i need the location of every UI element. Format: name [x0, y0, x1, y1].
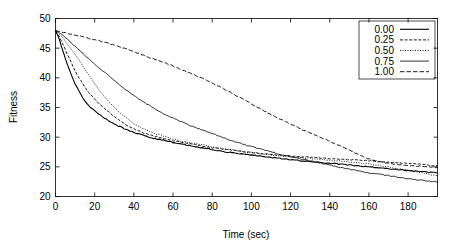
x-tick-label: 20 — [89, 201, 101, 212]
y-tick-label: 30 — [39, 132, 51, 143]
y-tick-label: 35 — [39, 102, 51, 113]
x-tick-label: 120 — [282, 201, 299, 212]
fitness-vs-time-chart: 20253035404550 020406080100120140160180 … — [0, 0, 455, 247]
x-tick-label: 0 — [53, 201, 59, 212]
x-tick-label: 100 — [243, 201, 260, 212]
y-tick-label: 50 — [39, 13, 51, 24]
x-axis-title: Time (sec) — [223, 229, 270, 240]
legend-label-0-50: 0.50 — [375, 45, 395, 56]
x-tick-label: 180 — [400, 201, 417, 212]
y-tick-label: 20 — [39, 191, 51, 202]
y-tick-label: 25 — [39, 161, 51, 172]
x-tick-label: 60 — [167, 201, 179, 212]
legend-label-0-75: 0.75 — [375, 56, 395, 67]
x-tick-label: 80 — [207, 201, 219, 212]
legend-label-0-25: 0.25 — [375, 34, 395, 45]
x-tick-label: 140 — [321, 201, 338, 212]
legend-label-1-00: 1.00 — [375, 66, 395, 77]
legend-label-0-00: 0.00 — [375, 24, 395, 35]
chart-canvas: 20253035404550 020406080100120140160180 … — [0, 0, 455, 247]
x-tick-label: 160 — [361, 201, 378, 212]
x-tick-label: 40 — [128, 201, 140, 212]
y-axis-title: Fitness — [8, 91, 19, 123]
y-tick-label: 45 — [39, 43, 51, 54]
y-tick-label: 40 — [39, 72, 51, 83]
